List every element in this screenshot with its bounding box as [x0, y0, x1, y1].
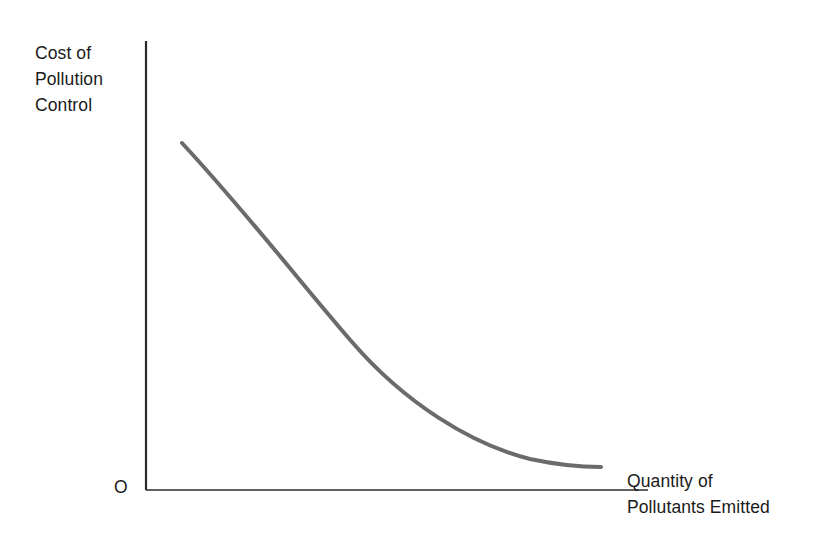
- y-axis-label-line-2: Pollution: [35, 66, 103, 92]
- cost-curve: [182, 143, 601, 467]
- x-axis-label: Quantity ofPollutants Emitted: [627, 468, 770, 520]
- origin-label: O: [114, 477, 128, 497]
- y-axis-label-line-1: Cost of: [35, 40, 103, 66]
- x-axis-label-line-2: Pollutants Emitted: [627, 494, 770, 520]
- y-axis-label: Cost ofPollutionControl: [35, 40, 103, 118]
- x-axis-label-line-1: Quantity of: [627, 468, 770, 494]
- y-axis-label-line-3: Control: [35, 92, 103, 118]
- pollution-control-cost-chart: Cost ofPollutionControl Quantity ofPollu…: [0, 0, 829, 555]
